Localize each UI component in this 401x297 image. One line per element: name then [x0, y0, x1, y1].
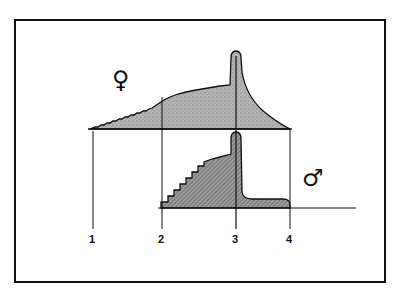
female-symbol-icon: ♀ [112, 66, 130, 94]
diagram-figure: 1 2 3 4 ♀ ♂ [0, 0, 401, 297]
male-area [161, 132, 290, 208]
diagram-frame [15, 20, 385, 282]
marker-label-1: 1 [89, 233, 95, 245]
marker-label-3: 3 [232, 233, 238, 245]
marker-label-2: 2 [158, 233, 164, 245]
male-curve [158, 132, 356, 208]
marker-label-4: 4 [286, 233, 293, 245]
male-symbol-icon: ♂ [302, 164, 324, 192]
